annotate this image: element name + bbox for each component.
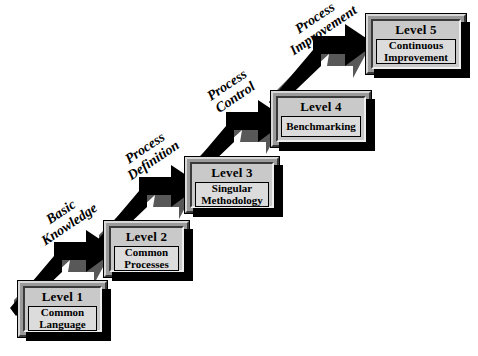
- level-box-5-line-2: Improvement: [384, 52, 448, 64]
- level-box-5-inner: Level 5 Continuous Improvement: [371, 19, 461, 69]
- level-box-2-inner: Level 2 Common Processes: [109, 226, 184, 272]
- level-box-1-line-2: Language: [39, 319, 85, 331]
- level-box-5-body: Continuous Improvement: [376, 39, 456, 64]
- level-box-5-line-1: Continuous: [389, 40, 443, 52]
- level-box-4-body: Benchmarking: [281, 116, 361, 137]
- level-box-4-line-1: Benchmarking: [286, 121, 356, 133]
- level-box-1[interactable]: Level 1 Common Language: [18, 281, 107, 337]
- level-box-2-title: Level 2: [126, 230, 167, 244]
- level-box-3-line-2: Methodology: [201, 195, 263, 207]
- level-box-2-line-1: Common: [125, 247, 168, 259]
- level-box-1-inner: Level 1 Common Language: [23, 286, 102, 332]
- level-box-2-body: Common Processes: [114, 246, 179, 271]
- level-box-3-inner: Level 3 Singular Methodology: [190, 162, 274, 208]
- level-box-3-body: Singular Methodology: [195, 182, 269, 207]
- level-box-3-title: Level 3: [211, 166, 252, 180]
- maturity-staircase-diagram: Basic Knowledge Process Definition Proce…: [0, 0, 478, 356]
- level-box-4-inner: Level 4 Benchmarking: [276, 96, 366, 142]
- level-box-4[interactable]: Level 4 Benchmarking: [271, 91, 371, 147]
- level-box-4-title: Level 4: [300, 100, 341, 114]
- level-box-2[interactable]: Level 2 Common Processes: [104, 221, 189, 277]
- level-box-1-title: Level 1: [42, 290, 83, 304]
- level-box-1-line-1: Common: [41, 307, 84, 319]
- level-box-1-body: Common Language: [28, 306, 97, 331]
- level-box-2-line-2: Processes: [124, 259, 168, 271]
- level-box-5-title: Level 5: [395, 23, 436, 37]
- level-box-3[interactable]: Level 3 Singular Methodology: [185, 157, 279, 213]
- level-box-5[interactable]: Level 5 Continuous Improvement: [366, 14, 466, 74]
- level-box-3-line-1: Singular: [212, 183, 252, 195]
